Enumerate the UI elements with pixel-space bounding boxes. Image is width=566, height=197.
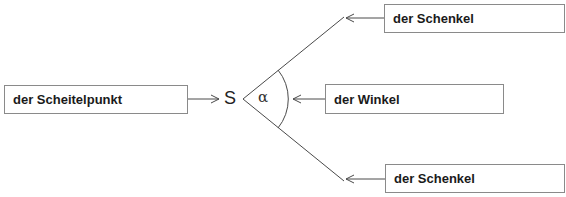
leg-bottom-box-label: der Schenkel — [394, 171, 475, 186]
angle-arc — [278, 70, 288, 128]
angle-symbol: α — [258, 88, 268, 106]
vertex-box: der Scheitelpunkt — [4, 85, 188, 114]
leg-top-box: der Schenkel — [384, 4, 565, 33]
angle-box: der Winkel — [325, 84, 504, 114]
vertex-label: S — [224, 88, 236, 109]
vertex-box-label: der Scheitelpunkt — [13, 92, 122, 107]
leg-bottom-box: der Schenkel — [385, 164, 565, 193]
angle-box-label: der Winkel — [334, 92, 400, 107]
leg-top-box-label: der Schenkel — [393, 11, 474, 26]
